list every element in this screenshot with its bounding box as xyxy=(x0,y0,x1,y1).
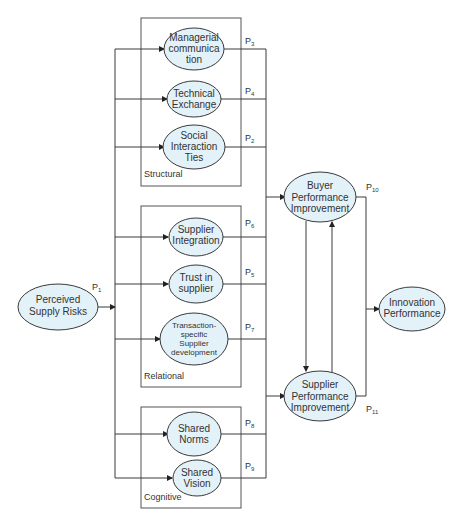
path-label-p7: P7 xyxy=(245,322,255,333)
svg-text:Technical: Technical xyxy=(173,88,215,99)
svg-text:Perceived: Perceived xyxy=(36,294,80,305)
path-label-p6: P6 xyxy=(245,218,255,229)
svg-text:Supply Risks: Supply Risks xyxy=(29,306,87,317)
svg-text:supplier: supplier xyxy=(178,283,214,294)
node-technical-exchange: Technical Exchange xyxy=(167,81,221,117)
path-label-p4: P4 xyxy=(245,86,255,97)
svg-text:Improvement: Improvement xyxy=(291,203,350,214)
cognitive-group-label: Cognitive xyxy=(144,492,182,502)
node-supplier-performance-improvement: Supplier Performance Improvement xyxy=(284,371,356,421)
structural-group-label: Structural xyxy=(144,169,183,179)
node-transaction-specific-supplier-development: Transaction- specific Supplier developme… xyxy=(160,313,228,365)
svg-text:Transaction-: Transaction- xyxy=(172,321,217,330)
path-label-p2: P2 xyxy=(245,133,255,144)
relational-group-label: Relational xyxy=(144,371,184,381)
svg-text:Innovation: Innovation xyxy=(389,297,435,308)
svg-text:Buyer: Buyer xyxy=(307,180,334,191)
path-label-p11: P11 xyxy=(366,404,379,415)
svg-text:Managerial: Managerial xyxy=(169,32,218,43)
svg-text:Social: Social xyxy=(180,130,207,141)
path-label-p3: P3 xyxy=(245,36,255,47)
path-label-p8: P8 xyxy=(245,418,255,429)
svg-text:Vision: Vision xyxy=(183,478,210,489)
node-shared-vision: Shared Vision xyxy=(173,460,221,496)
svg-text:specific: specific xyxy=(181,330,208,339)
research-model-diagram: Structural Relational Cognitive xyxy=(0,0,463,525)
svg-text:Interaction: Interaction xyxy=(171,141,218,152)
node-trust-in-supplier: Trust in supplier xyxy=(169,265,223,303)
svg-text:Shared: Shared xyxy=(178,423,210,434)
path-label-p9: P9 xyxy=(245,461,255,472)
svg-text:Ties: Ties xyxy=(185,152,204,163)
svg-text:Supplier: Supplier xyxy=(179,339,209,348)
risk-distribution-connectors xyxy=(98,49,172,478)
path-label-p10: P10 xyxy=(366,182,379,193)
node-perceived-supply-risks: Perceived Supply Risks xyxy=(18,284,98,330)
path-label-p5: P5 xyxy=(245,267,255,278)
svg-text:Supplier: Supplier xyxy=(302,379,339,390)
performance-reciprocal-connectors xyxy=(306,221,332,372)
svg-text:Trust in: Trust in xyxy=(180,272,213,283)
node-buyer-performance-improvement: Buyer Performance Improvement xyxy=(284,172,356,222)
svg-text:Performance: Performance xyxy=(291,391,349,402)
node-managerial-communication: Managerial communica tion xyxy=(164,28,224,70)
svg-text:Supplier: Supplier xyxy=(178,224,215,235)
svg-text:Performance: Performance xyxy=(291,192,349,203)
node-supplier-integration: Supplier Integration xyxy=(169,218,223,256)
svg-text:Exchange: Exchange xyxy=(172,99,217,110)
svg-text:development: development xyxy=(171,348,218,357)
svg-text:Integration: Integration xyxy=(172,235,219,246)
svg-text:communica: communica xyxy=(168,43,220,54)
svg-text:Performance: Performance xyxy=(383,308,441,319)
capital-collector-connectors xyxy=(220,49,285,478)
svg-text:Norms: Norms xyxy=(179,434,208,445)
innovation-connectors xyxy=(356,197,379,396)
svg-text:tion: tion xyxy=(186,54,202,65)
node-innovation-performance: Innovation Performance xyxy=(379,287,445,331)
path-label-p1: P1 xyxy=(92,282,102,293)
svg-text:Shared: Shared xyxy=(181,467,213,478)
svg-text:Improvement: Improvement xyxy=(291,402,350,413)
node-shared-norms: Shared Norms xyxy=(167,412,221,456)
node-social-interaction-ties: Social Interaction Ties xyxy=(163,125,225,169)
